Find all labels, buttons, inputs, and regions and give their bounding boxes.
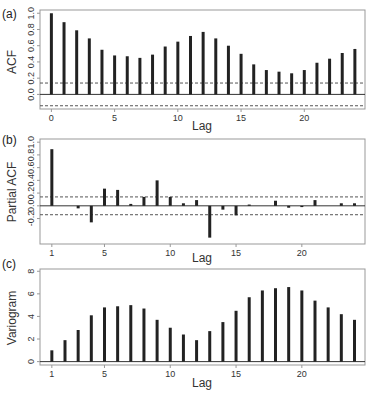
figure: (a) ACF 0.00.20.40.60.81.0 05101520 Lag … bbox=[0, 0, 379, 395]
y-axis-title-a: ACF bbox=[5, 50, 19, 74]
x-axis-title-c: Lag bbox=[192, 376, 212, 390]
y-tick-label: 1.0 bbox=[26, 7, 36, 20]
y-tick-label: 0.6 bbox=[26, 39, 36, 52]
x-axis-title-b: Lag bbox=[192, 251, 212, 265]
y-axis-title-b: Partial ACF bbox=[5, 162, 19, 223]
y-ticks-c: 02468 bbox=[26, 269, 40, 364]
pacf-bars bbox=[40, 149, 365, 237]
x-tick-label: 1 bbox=[49, 369, 54, 379]
variogram-bars bbox=[40, 287, 365, 362]
x-tick-label: 10 bbox=[165, 369, 175, 379]
variogram-panel: (c) Variogram 02468 15101520 Lag bbox=[2, 257, 365, 390]
y-ticks-b: -0.20.00.20.40.60.81.0 bbox=[26, 136, 40, 226]
y-tick-label: 1.0 bbox=[26, 136, 36, 149]
y-tick-label: 8 bbox=[26, 269, 36, 274]
y-ticks-a: 0.00.20.40.60.81.0 bbox=[26, 7, 40, 101]
x-tick-label: 5 bbox=[102, 369, 107, 379]
y-tick-label: 0.2 bbox=[26, 72, 36, 85]
acf-panel: (a) ACF 0.00.20.40.60.81.0 05101520 Lag bbox=[2, 7, 365, 133]
y-tick-label: -0.2 bbox=[26, 211, 36, 227]
x-tick-label: 5 bbox=[102, 248, 107, 258]
x-tick-label: 1 bbox=[49, 248, 54, 258]
x-tick-label: 5 bbox=[112, 113, 117, 123]
y-tick-label: 0.4 bbox=[26, 174, 36, 187]
x-ticks-c: 15101520 bbox=[49, 365, 307, 379]
y-tick-label: 0.4 bbox=[26, 56, 36, 69]
y-tick-label: 2 bbox=[26, 337, 36, 342]
x-axis-title-a: Lag bbox=[192, 119, 212, 133]
x-ticks-a: 05101520 bbox=[49, 109, 309, 123]
y-tick-label: 0 bbox=[26, 359, 36, 364]
y-tick-label: 0.6 bbox=[26, 161, 36, 174]
y-tick-label: 0.8 bbox=[26, 149, 36, 162]
y-tick-label: 0.0 bbox=[26, 88, 36, 101]
x-tick-label: 10 bbox=[165, 248, 175, 258]
y-axis-title-c: Variogram bbox=[5, 291, 19, 345]
panel-label-c: (c) bbox=[2, 257, 16, 271]
y-tick-label: 4 bbox=[26, 314, 36, 319]
x-tick-label: 15 bbox=[236, 113, 246, 123]
y-tick-label: 0.8 bbox=[26, 23, 36, 36]
x-ticks-b: 15101520 bbox=[49, 244, 307, 258]
plot-area-b bbox=[40, 139, 365, 244]
x-tick-label: 20 bbox=[299, 113, 309, 123]
x-tick-label: 15 bbox=[231, 248, 241, 258]
x-tick-label: 20 bbox=[297, 248, 307, 258]
x-tick-label: 20 bbox=[297, 369, 307, 379]
panel-label-b: (b) bbox=[2, 133, 17, 147]
acf-bars bbox=[40, 13, 365, 106]
y-tick-label: 0.2 bbox=[26, 187, 36, 200]
x-tick-label: 0 bbox=[49, 113, 54, 123]
x-tick-label: 15 bbox=[231, 369, 241, 379]
y-tick-label: 6 bbox=[26, 291, 36, 296]
x-tick-label: 10 bbox=[173, 113, 183, 123]
pacf-panel: (b) Partial ACF -0.20.00.20.40.60.81.0 1… bbox=[2, 133, 365, 265]
panel-label-a: (a) bbox=[2, 7, 17, 21]
y-tick-label: 0.0 bbox=[26, 200, 36, 213]
